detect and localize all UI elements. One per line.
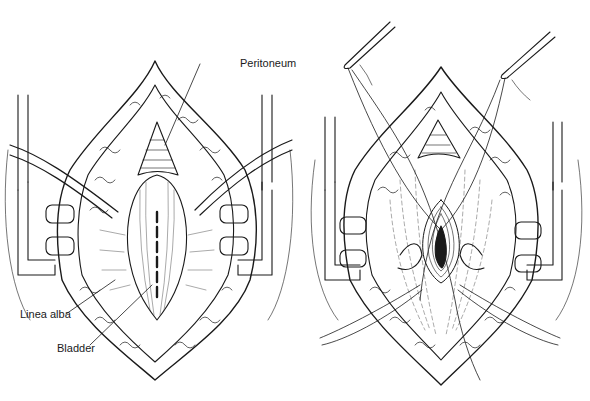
right-panel: [311, 22, 582, 385]
label-linea-alba: Linea alba: [20, 309, 71, 320]
label-peritoneum: Peritoneum: [240, 58, 296, 69]
label-bladder: Bladder: [57, 343, 95, 354]
surgical-illustration: Peritoneum Linea alba Bladder: [0, 0, 590, 401]
left-panel: [5, 61, 293, 380]
